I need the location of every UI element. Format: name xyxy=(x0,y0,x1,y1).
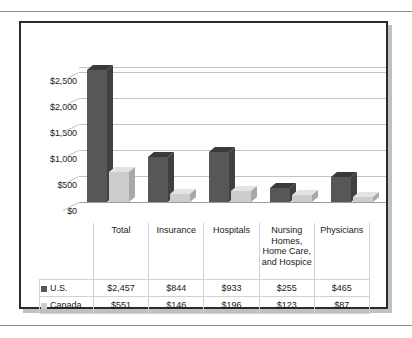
category-label-hospitals: Hospitals xyxy=(204,223,259,280)
gridline-depth-2500 xyxy=(63,72,79,81)
category-label-total: Total xyxy=(94,223,149,280)
bar-front-face xyxy=(148,157,168,202)
value-us-nursing-homes: $255 xyxy=(259,280,314,297)
gridline-depth-1000 xyxy=(63,150,79,159)
chart-plot-area: $2,500 $2,000 $1,500 $1,000 $500 $0 xyxy=(21,23,386,223)
bar-us-insurance[interactable] xyxy=(148,157,168,202)
value-canada-hospitals: $196 xyxy=(204,297,259,314)
bar-us-nursing-homes[interactable] xyxy=(270,188,290,202)
bar-front-face xyxy=(209,152,229,202)
bar-front-face xyxy=(270,188,290,202)
value-us-total: $2,457 xyxy=(94,280,149,297)
chart-data-table: Total Insurance Hospitals Nursing Homes,… xyxy=(39,223,370,314)
bar-canada-physicians[interactable] xyxy=(353,197,373,202)
table-row: U.S. $2,457 $844 $933 $255 $465 xyxy=(40,280,370,297)
figure-inner: $2,500 $2,000 $1,500 $1,000 $500 $0 xyxy=(21,23,386,307)
bar-front-face xyxy=(331,177,351,202)
gridline-depth-1500 xyxy=(63,124,79,133)
bar-canada-nursing-homes[interactable] xyxy=(292,195,312,202)
legend-label-us: U.S. xyxy=(50,283,68,294)
bar-front-face xyxy=(170,194,190,202)
value-canada-total: $551 xyxy=(94,297,149,314)
bar-us-total[interactable] xyxy=(87,70,107,202)
bar-canada-hospitals[interactable] xyxy=(231,191,251,202)
bar-front-face xyxy=(292,195,312,202)
page-rule-top xyxy=(0,11,412,12)
legend-item-us: U.S. xyxy=(40,280,94,297)
bar-group-nursing-homes xyxy=(262,23,323,223)
bar-group-physicians xyxy=(323,23,384,223)
figure-frame: $2,500 $2,000 $1,500 $1,000 $500 $0 xyxy=(19,21,388,309)
legend-label-canada: Canada xyxy=(50,300,82,311)
category-label-physicians: Physicians xyxy=(314,223,369,280)
value-canada-insurance: $146 xyxy=(149,297,204,314)
bar-canada-insurance[interactable] xyxy=(170,194,190,202)
table-row-categories: Total Insurance Hospitals Nursing Homes,… xyxy=(40,223,370,280)
bar-front-face xyxy=(87,70,107,202)
bar-side-face xyxy=(129,167,135,202)
table-row: Canada $551 $146 $196 $123 $87 xyxy=(40,297,370,314)
bar-group-hospitals xyxy=(201,23,262,223)
bar-group-total xyxy=(79,23,140,223)
bar-canada-total[interactable] xyxy=(109,172,129,202)
chart-bars xyxy=(79,23,386,223)
bar-front-face xyxy=(109,172,129,202)
page-rule-bottom xyxy=(0,325,412,326)
category-label-nursing-homes: Nursing Homes, Home Care, and Hospice xyxy=(259,223,314,280)
value-us-hospitals: $933 xyxy=(204,280,259,297)
value-us-insurance: $844 xyxy=(149,280,204,297)
category-label-insurance: Insurance xyxy=(149,223,204,280)
category-row-spacer xyxy=(40,223,94,280)
legend-swatch-icon-canada xyxy=(41,303,47,309)
bar-us-hospitals[interactable] xyxy=(209,152,229,202)
bar-front-face xyxy=(231,191,251,202)
value-canada-nursing-homes: $123 xyxy=(259,297,314,314)
value-canada-physicians: $87 xyxy=(314,297,369,314)
bar-us-physicians[interactable] xyxy=(331,177,351,202)
bar-front-face xyxy=(353,197,373,202)
gridline-depth-2000 xyxy=(63,98,79,107)
gridline-depth-0 xyxy=(63,202,79,211)
gridline-depth-500 xyxy=(63,176,79,185)
value-us-physicians: $465 xyxy=(314,280,369,297)
legend-item-canada: Canada xyxy=(40,297,94,314)
bar-group-insurance xyxy=(140,23,201,223)
legend-swatch-icon-us xyxy=(41,286,47,292)
